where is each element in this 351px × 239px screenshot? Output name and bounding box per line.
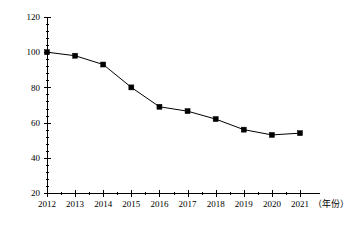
- data-point-marker: [185, 109, 190, 114]
- x-tick-label: 2013: [66, 199, 85, 209]
- y-tick-label: 20: [31, 188, 41, 198]
- y-tick-label: 80: [31, 83, 41, 93]
- y-tick-label: 120: [27, 12, 41, 22]
- x-tick-label: 2012: [38, 199, 56, 209]
- chart-canvas: 2040608010012020122013201420152016201720…: [0, 0, 351, 239]
- chart-axes: [47, 17, 320, 194]
- data-point-marker: [213, 117, 218, 122]
- data-point-marker: [157, 104, 162, 109]
- series-line: [47, 52, 300, 135]
- y-tick-label: 40: [31, 153, 41, 163]
- x-tick-label: 2017: [179, 199, 198, 209]
- x-tick-label: 2014: [94, 199, 113, 209]
- x-tick-label: 2018: [207, 199, 226, 209]
- x-tick-label: 2015: [122, 199, 141, 209]
- y-tick-label: 100: [27, 47, 41, 57]
- y-axis-ticks: 20406080100120: [27, 12, 51, 198]
- x-axis-ticks: 2012201320142015201620172018201920202021: [38, 190, 309, 210]
- x-tick-label: 2016: [150, 199, 169, 209]
- x-tick-label: 2019: [235, 199, 254, 209]
- data-series: [45, 50, 303, 138]
- x-tick-label: 2021: [291, 199, 309, 209]
- data-point-marker: [298, 131, 303, 136]
- line-chart: 2040608010012020122013201420152016201720…: [0, 0, 351, 239]
- data-point-marker: [241, 127, 246, 132]
- data-point-marker: [101, 62, 106, 67]
- x-axis-title: （年份）: [313, 198, 349, 209]
- data-point-marker: [269, 132, 274, 137]
- data-point-marker: [129, 85, 134, 90]
- data-point-marker: [73, 53, 78, 58]
- data-point-marker: [45, 50, 50, 55]
- y-tick-label: 60: [31, 118, 41, 128]
- x-tick-label: 2020: [263, 199, 282, 209]
